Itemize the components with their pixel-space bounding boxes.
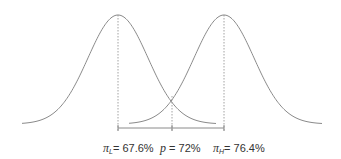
pi-l-label: πL= 67.6% [103,142,154,158]
p-label: p = 72% [160,142,201,154]
distribution-diagram [0,0,341,159]
pi-h-value: = 76.4% [224,142,265,154]
p-value: = 72% [166,142,201,154]
high-distribution-curve [129,15,322,123]
pi-h-label: πH= 76.4% [213,142,265,158]
low-distribution-curve [22,15,216,123]
pi-l-value: = 67.6% [113,142,154,154]
